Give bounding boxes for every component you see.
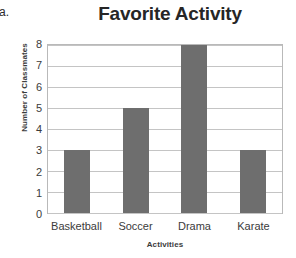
bar-karate	[240, 150, 266, 213]
chart-title: Favorite Activity	[60, 2, 280, 26]
bar-slot	[224, 45, 283, 213]
y-axis-tick-label: 0	[22, 209, 42, 220]
y-axis-tick-label: 3	[22, 145, 42, 156]
x-axis-label-basketball: Basketball	[47, 219, 106, 233]
y-axis-tick-label: 2	[22, 166, 42, 177]
bar-slot	[107, 45, 166, 213]
plot-area	[47, 44, 283, 214]
x-axis-label-drama: Drama	[165, 219, 224, 233]
problem-item-marker: a.	[0, 6, 9, 18]
gridline	[48, 213, 282, 214]
x-axis-label-soccer: Soccer	[106, 219, 165, 233]
y-axis-tick-label: 8	[22, 39, 42, 50]
y-axis-tick-label: 5	[22, 102, 42, 113]
y-axis-tick-label: 1	[22, 187, 42, 198]
x-axis-category-labels: BasketballSoccerDramaKarate	[47, 219, 283, 233]
bar-drama	[181, 45, 207, 213]
y-axis-tick-label: 7	[22, 60, 42, 71]
x-axis-title: Activities	[47, 240, 283, 250]
bar-basketball	[64, 150, 90, 213]
y-axis-tick-labels: 012345678	[22, 36, 42, 214]
bars-layer	[48, 45, 282, 213]
bar-slot	[48, 45, 107, 213]
y-axis-tick-label: 4	[22, 124, 42, 135]
x-axis-label-karate: Karate	[224, 219, 283, 233]
y-axis-tick-label: 6	[22, 81, 42, 92]
bar-soccer	[123, 108, 149, 213]
bar-slot	[165, 45, 224, 213]
